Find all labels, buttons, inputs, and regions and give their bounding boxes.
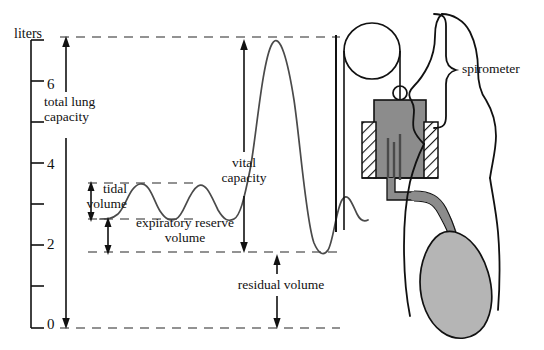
axis-unit-label: liters (14, 26, 42, 42)
axis-tick-label-2: 2 (47, 236, 55, 253)
axis-tick-label-4: 4 (47, 156, 55, 173)
lung-icon (420, 231, 492, 338)
residual-volume-label: residual volume (222, 277, 340, 292)
total-lung-capacity-label: total lung capacity (44, 94, 95, 124)
tidal-volume-label: tidal volume (59, 181, 127, 211)
y-axis (31, 40, 44, 328)
axis-tick-label-6: 6 (47, 76, 55, 93)
spirometry-figure: liters 6 4 2 0 total lung capacity tidal… (0, 0, 544, 350)
curly-brace-icon (434, 14, 456, 128)
expiratory-reserve-volume-label: expiratory reserve volume (110, 215, 260, 245)
pulley-icon (344, 23, 400, 79)
axis-tick-label-0: 0 (47, 316, 55, 333)
spirometer-label: spirometer (462, 61, 520, 76)
vital-capacity-label: vital capacity (205, 155, 283, 185)
